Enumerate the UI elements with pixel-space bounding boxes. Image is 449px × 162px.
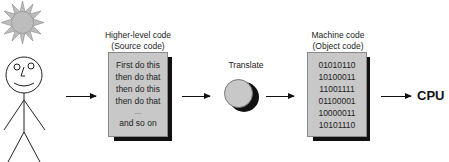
object-line: 10100011: [308, 71, 366, 83]
source-line: then do that: [109, 95, 167, 107]
object-line: 01010110: [308, 59, 366, 71]
object-title: Machine code (Object code): [298, 30, 378, 52]
arrow-object-to-cpu: [381, 96, 411, 97]
source-code-box: First do this then do that then do this …: [108, 52, 168, 137]
object-title-line2: (Object code): [298, 41, 378, 52]
arrow-translate-to-object: [266, 96, 294, 97]
source-title-line1: Higher-level code: [98, 30, 178, 41]
translate-circle: [224, 79, 253, 108]
source-line: ....: [109, 107, 167, 117]
person-icon: [0, 52, 50, 162]
source-line: and so on: [109, 117, 167, 129]
translate-label: Translate: [216, 60, 276, 71]
sun-icon: [0, 0, 45, 45]
source-line: then do that: [109, 71, 167, 83]
source-title: Higher-level code (Source code): [98, 30, 178, 52]
source-line: then do this: [109, 83, 167, 95]
arrow-source-to-translate: [182, 96, 210, 97]
source-title-line2: (Source code): [98, 41, 178, 52]
arrow-person-to-source: [66, 96, 96, 97]
object-code-box: 01010110 10100011 11001111 01100001 1000…: [307, 52, 367, 137]
cpu-label: CPU: [417, 88, 444, 103]
object-line: 11001111: [308, 83, 366, 95]
object-title-line1: Machine code: [298, 30, 378, 41]
object-line: 01100001: [308, 95, 366, 107]
object-line: 10101110: [308, 119, 366, 131]
object-line: 10000011: [308, 107, 366, 119]
source-line: First do this: [109, 59, 167, 71]
